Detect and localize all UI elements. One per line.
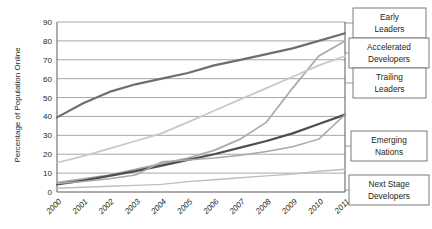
y-axis-ticks: 0102030405060708090 [43,18,52,197]
y-tick-label: 40 [43,112,52,121]
x-axis-ticks: 2000200120022003200420052006200720082009… [44,197,352,217]
x-tick-label: 2006 [201,197,221,217]
y-tick-label: 30 [43,131,52,140]
y-tick-label: 50 [43,94,52,103]
series-line-lower-trend [57,169,345,188]
y-tick-label: 60 [43,75,52,84]
x-tick-label: 2003 [122,197,142,217]
legend-callout-label: Next Stage [368,179,409,189]
chart-container: 0102030405060708090 20002001200220032004… [0,0,432,229]
legend-callout-label: Leaders [375,84,405,94]
y-tick-label: 0 [48,188,53,197]
x-tick-label: 2011 [332,197,351,216]
line-chart: 0102030405060708090 20002001200220032004… [0,0,432,229]
series-line-accelerated-developers [57,41,345,183]
series-line-early-leaders [57,33,345,117]
x-tick-label: 2002 [96,197,116,217]
x-tick-label: 2001 [70,197,90,217]
y-tick-label: 20 [43,150,52,159]
legend-callout-label: Emerging [371,135,407,145]
y-tick-label: 70 [43,56,52,65]
legend-callout-label: Leaders [375,24,405,34]
legend-callout-label: Accelerated [367,42,411,52]
y-tick-label: 90 [43,18,52,27]
y-tick-label: 80 [43,37,52,46]
y-axis-title: Percentage of Population Online [13,47,22,163]
x-tick-label: 2005 [175,197,195,217]
legend-callout-label: Developers [368,191,410,201]
x-tick-label: 2009 [279,197,299,217]
x-tick-label: 2007 [227,197,247,217]
x-tick-label: 2010 [306,197,326,217]
x-tick-label: 2000 [44,197,64,217]
x-tick-label: 2008 [253,197,273,217]
legend-callout-label: Trailing [376,72,403,82]
x-tick-label: 2004 [148,197,168,217]
series-line-emerging-nations [57,115,345,185]
legend-callout-label: Early [380,12,400,22]
legend-callouts: EarlyLeadersAcceleratedDevelopersTrailin… [349,8,429,205]
series-group [57,33,345,188]
gridlines-group [57,22,345,192]
series-line-trailing-leaders [57,56,345,163]
y-tick-label: 10 [43,169,52,178]
legend-callout-label: Nations [375,147,403,157]
legend-callout-label: Developers [368,54,410,64]
